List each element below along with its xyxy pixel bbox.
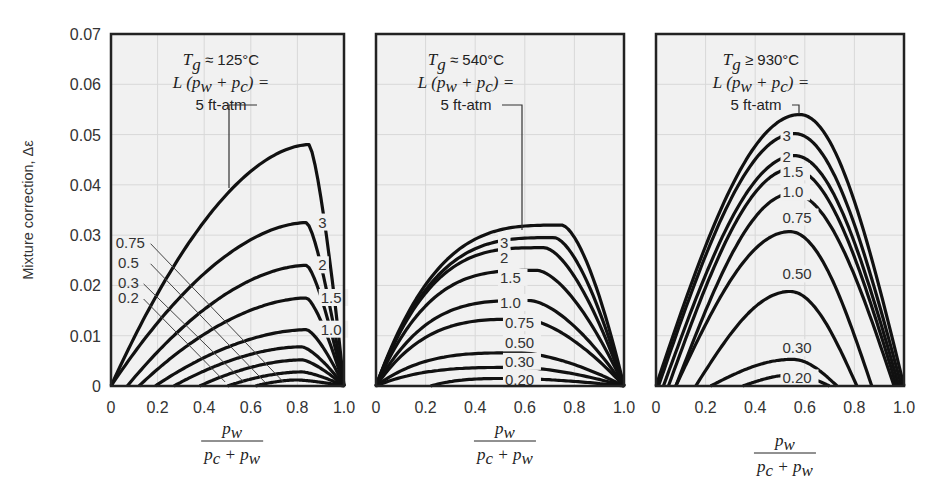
x-tick-label: 0.2 xyxy=(694,399,716,416)
curve-label: 3 xyxy=(782,127,790,144)
curve-label: 1.0 xyxy=(321,321,342,338)
y-tick-label: 0.03 xyxy=(70,227,101,244)
curve-label: 0.2 xyxy=(118,289,139,306)
curve-label: 0.50 xyxy=(782,265,811,282)
x-axis-label-numerator: pw xyxy=(221,419,243,442)
x-tick-label: 0.8 xyxy=(286,399,308,416)
x-tick-label: 0.4 xyxy=(193,399,215,416)
curve-label: 0.75 xyxy=(505,314,534,331)
curve-label: 0.50 xyxy=(505,334,534,351)
y-tick-label: 0.04 xyxy=(70,177,101,194)
x-tick-label: 0 xyxy=(372,399,381,416)
x-axis-label-denominator: pc + pw xyxy=(476,445,534,468)
y-tick-label: 0.02 xyxy=(70,277,101,294)
x-tick-label: 0.6 xyxy=(240,399,262,416)
x-tick-label: 0.2 xyxy=(414,399,436,416)
x-axis-label-numerator: pw xyxy=(494,419,515,442)
x-tick-label: 0.6 xyxy=(514,399,536,416)
curve-label: 1.5 xyxy=(500,269,521,286)
x-axis-label-denominator: pc + pw xyxy=(203,445,261,468)
five-ft-atm-label: 5 ft-atm xyxy=(731,96,782,113)
curve-label: 1.0 xyxy=(782,183,803,200)
curve-label: 1.0 xyxy=(500,294,521,311)
x-tick-label: 1.0 xyxy=(333,399,355,416)
x-tick-label: 1.0 xyxy=(893,399,915,416)
x-tick-label: 0.2 xyxy=(146,399,168,416)
curve-label: 0.20 xyxy=(782,369,811,386)
x-tick-label: 0.8 xyxy=(563,399,585,416)
x-tick-label: 0 xyxy=(107,399,116,416)
x-tick-label: 1.0 xyxy=(613,399,635,416)
y-tick-label: 0.01 xyxy=(70,328,101,345)
y-tick-label: 0.07 xyxy=(70,26,101,43)
curve-label: 3 xyxy=(318,214,326,231)
curve-label: 1.5 xyxy=(321,289,342,306)
y-tick-label: 0.06 xyxy=(70,76,101,93)
chart-panel-1: 321.51.00.750.50.30.2Tg ≈ 125°CL (pw + p… xyxy=(70,26,355,468)
y-tick-label: 0.05 xyxy=(70,127,101,144)
x-tick-label: 0.6 xyxy=(794,399,816,416)
curve-label: 2 xyxy=(500,249,508,266)
curve-label: 2 xyxy=(318,256,326,273)
curve-label: 0.30 xyxy=(505,353,534,370)
x-tick-label: 0 xyxy=(652,399,661,416)
x-axis-label-denominator: pc + pw xyxy=(756,457,814,480)
chart-panel-2: 321.51.00.750.500.300.20Tg ≈ 540°CL (pw … xyxy=(372,34,636,468)
y-axis-label: Mixture correction, Δε xyxy=(20,140,36,280)
curve-label: 1.5 xyxy=(782,163,803,180)
x-axis-label-numerator: pw xyxy=(774,431,796,454)
chart-panel-3: 321.51.00.750.500.300.20Tg ≥ 930°CL (pw … xyxy=(652,34,916,480)
curve-label: 0.75 xyxy=(116,234,145,251)
x-tick-label: 0.4 xyxy=(464,399,486,416)
five-ft-atm-label: 5 ft-atm xyxy=(441,96,492,113)
curve-label: 0.75 xyxy=(782,209,811,226)
y-tick-label: 0 xyxy=(92,378,101,395)
x-tick-label: 0.8 xyxy=(843,399,865,416)
curve-label: 0.30 xyxy=(782,339,811,356)
x-tick-label: 0.4 xyxy=(744,399,766,416)
mixture-correction-figure: 321.51.00.750.50.30.2Tg ≈ 125°CL (pw + p… xyxy=(0,0,945,485)
curve-label: 0.5 xyxy=(118,254,139,271)
